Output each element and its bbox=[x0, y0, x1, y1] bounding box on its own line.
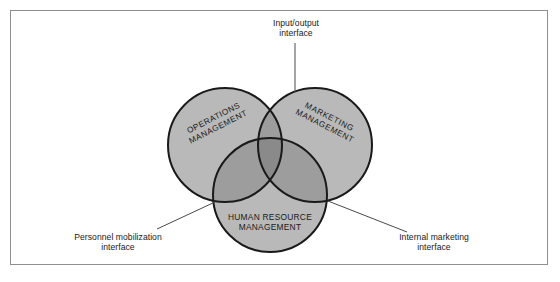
circle-hr-line2: MANAGEMENT bbox=[206, 223, 334, 233]
callout-internal-line1: Internal marketing bbox=[364, 232, 504, 242]
circle-label-human-resource-management: HUMAN RESOURCE MANAGEMENT bbox=[206, 213, 334, 233]
figure-caption bbox=[14, 271, 314, 282]
callout-input-output-line1: Input/output bbox=[241, 18, 351, 28]
callout-internal-line2: interface bbox=[364, 242, 504, 252]
callout-label-internal-marketing: Internal marketing interface bbox=[364, 232, 504, 252]
callout-personnel-line1: Personnel mobilization bbox=[43, 232, 193, 242]
callout-input-output-line2: interface bbox=[241, 28, 351, 38]
figure-root: Input/output interface Personnel mobiliz… bbox=[0, 0, 560, 282]
callout-label-input-output: Input/output interface bbox=[241, 18, 351, 38]
callout-personnel-line2: interface bbox=[43, 242, 193, 252]
callout-label-personnel-mobilization: Personnel mobilization interface bbox=[43, 232, 193, 252]
leader-line-internal-marketing bbox=[328, 201, 407, 232]
